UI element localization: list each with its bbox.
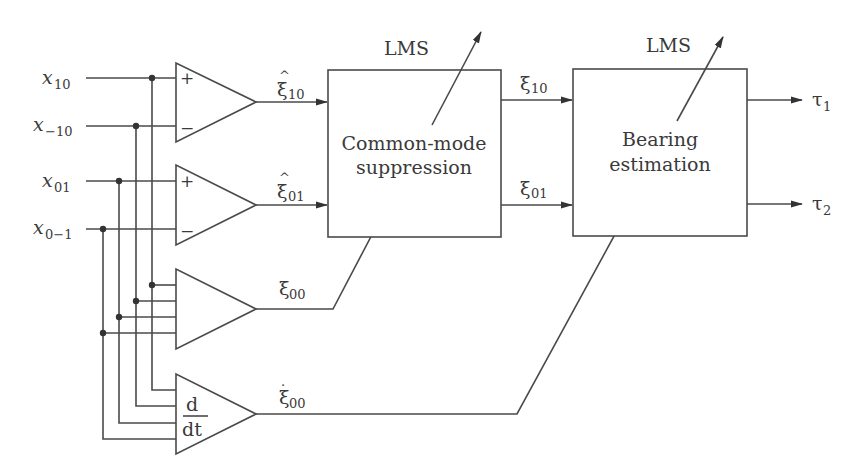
lms-label-2: LMS — [646, 34, 691, 56]
svg-text:ξ: ξ — [279, 277, 289, 299]
input-label-x10: x 10 — [42, 66, 71, 92]
svg-text:x: x — [42, 169, 53, 191]
svg-text:τ: τ — [812, 192, 823, 214]
bus-x01 — [119, 181, 176, 423]
svg-text:10: 10 — [54, 77, 71, 92]
label-xi-00: ξ 00 — [279, 277, 306, 302]
bus-x10 — [152, 78, 176, 390]
svg-text:−: − — [180, 221, 194, 241]
svg-text:00: 00 — [289, 287, 306, 302]
svg-text:−10: −10 — [45, 124, 72, 139]
label-xi-hat-01: ξ ^ 01 — [277, 170, 305, 204]
svg-text:suppression: suppression — [356, 156, 472, 178]
svg-text:+: + — [180, 68, 194, 88]
svg-text:−: − — [180, 118, 194, 138]
signal-processing-block-diagram: x 10 x −10 x 01 x 0−1 + − — [0, 0, 861, 475]
svg-text:10: 10 — [288, 87, 305, 102]
svg-text:2: 2 — [823, 203, 831, 218]
diff-amp-01: + − — [176, 165, 256, 245]
svg-text:·: · — [281, 378, 285, 393]
svg-text:1: 1 — [823, 99, 831, 114]
svg-text:0−1: 0−1 — [45, 227, 72, 242]
svg-text:Bearing: Bearing — [622, 128, 698, 150]
svg-text:x: x — [33, 216, 44, 238]
svg-text:^: ^ — [279, 68, 290, 83]
svg-text:estimation: estimation — [609, 153, 710, 175]
label-xi-10: ξ 10 — [520, 72, 548, 96]
svg-text:ξ: ξ — [520, 177, 530, 199]
svg-text:00: 00 — [289, 396, 306, 411]
junction-dots — [100, 75, 155, 336]
input-label-x-10: x −10 — [33, 113, 72, 139]
label-tau-2: τ 2 — [812, 192, 831, 218]
bus-x0-1 — [103, 229, 176, 439]
svg-text:x: x — [42, 66, 53, 88]
bus-x-10 — [136, 126, 176, 406]
label-xi-dot-00: ξ · 00 — [279, 378, 306, 411]
svg-text:+: + — [180, 171, 194, 191]
diff-amp-10: + − — [176, 63, 256, 142]
svg-text:τ: τ — [812, 88, 823, 110]
svg-text:x: x — [33, 113, 44, 135]
svg-text:d: d — [186, 393, 198, 415]
bearing-estimation-block: Bearing estimation — [573, 69, 747, 236]
lms-label-1: LMS — [384, 37, 429, 59]
svg-text:01: 01 — [531, 186, 548, 201]
svg-text:01: 01 — [54, 180, 71, 195]
svg-text:01: 01 — [288, 189, 305, 204]
input-label-x01: x 01 — [42, 169, 71, 195]
input-label-x0-1: x 0−1 — [33, 216, 72, 242]
svg-text:dt: dt — [182, 418, 202, 440]
svg-text:ξ: ξ — [520, 72, 530, 94]
label-xi-01: ξ 01 — [520, 177, 548, 201]
label-xi-hat-10: ξ ^ 10 — [277, 68, 305, 102]
svg-text:10: 10 — [531, 81, 548, 96]
svg-text:^: ^ — [279, 170, 290, 185]
svg-text:Common-mode: Common-mode — [342, 132, 487, 154]
derivative-amp-00: d dt — [176, 374, 256, 454]
sum-amp-00 — [176, 269, 256, 349]
label-tau-1: τ 1 — [812, 88, 831, 114]
common-mode-suppression-block: Common-mode suppression — [328, 70, 501, 237]
